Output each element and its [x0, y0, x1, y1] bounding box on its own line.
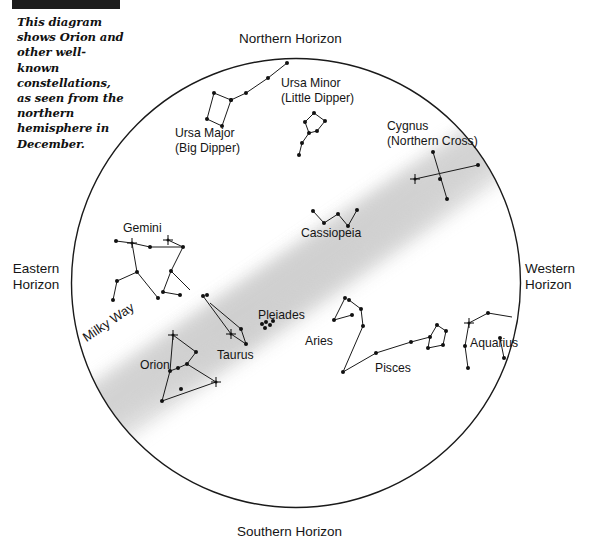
- constellation-line: [343, 326, 363, 372]
- constellation-line: [343, 353, 376, 372]
- star-dot: [161, 290, 165, 294]
- constellation-line: [168, 240, 183, 247]
- constellation-alt-name: (Big Dipper): [175, 141, 240, 156]
- star-dot: [160, 399, 164, 403]
- constellation-line: [430, 325, 437, 337]
- star-dot: [201, 294, 205, 298]
- star-dot: [486, 311, 490, 315]
- star-dot: [332, 318, 336, 322]
- constellation-name: Pleiades: [258, 308, 305, 323]
- star-dot: [300, 141, 304, 145]
- constellation-name: Orion: [140, 358, 170, 373]
- star-dot: [463, 344, 467, 348]
- star-dot: [322, 221, 326, 225]
- label-cassiopeia: Cassiopeia: [301, 226, 361, 241]
- star-dot: [179, 387, 183, 391]
- label-southern-horizon: Southern Horizon: [237, 524, 342, 540]
- constellation-gemini: [111, 235, 209, 302]
- label-western-horizon-line2: Horizon: [525, 277, 589, 293]
- star-dot: [148, 245, 152, 249]
- bright-star-marker: [163, 235, 173, 245]
- constellation-line: [222, 100, 231, 126]
- constellation-name: Aries: [305, 334, 333, 349]
- star-dot: [205, 117, 209, 121]
- constellation-line: [443, 331, 446, 345]
- constellation-alt-name: (Little Dipper): [281, 91, 354, 106]
- constellation-name: Aquarius: [470, 336, 518, 351]
- constellation-name: Ursa Major: [175, 126, 240, 141]
- star-dot: [229, 98, 233, 102]
- star-dot: [176, 366, 180, 370]
- star-dot: [114, 239, 118, 243]
- constellation-line: [163, 271, 171, 292]
- star-dot: [336, 212, 340, 216]
- star-dot: [135, 270, 139, 274]
- star-dot: [343, 296, 347, 300]
- constellation-line: [349, 300, 361, 309]
- constellation-name: Pisces: [375, 361, 411, 376]
- star-dot: [426, 346, 430, 350]
- label-cygnus: Cygnus(Northern Cross): [387, 119, 478, 148]
- constellation-line: [465, 323, 469, 346]
- label-ursa-minor: Ursa Minor(Little Dipper): [281, 76, 354, 105]
- star-dot: [359, 307, 363, 311]
- label-taurus: Taurus: [217, 348, 254, 363]
- bright-star-marker: [464, 318, 474, 328]
- star-dot: [445, 197, 449, 201]
- label-orion: Orion: [140, 358, 170, 373]
- star-dot: [303, 120, 307, 124]
- star-dot: [244, 91, 248, 95]
- star-dot: [441, 343, 445, 347]
- label-ursa-major: Ursa Major(Big Dipper): [175, 126, 240, 155]
- constellation-line: [376, 342, 411, 353]
- constellation-name: Cassiopeia: [301, 226, 361, 241]
- constellation-line: [137, 272, 158, 298]
- constellation-line: [132, 243, 137, 272]
- star-dot: [312, 111, 316, 115]
- star-dot: [323, 119, 327, 123]
- star-dot: [115, 279, 119, 283]
- constellation-line: [214, 93, 231, 100]
- star-dot: [239, 327, 243, 331]
- star-dot: [428, 335, 432, 339]
- constellation-ursa-major: [205, 61, 289, 128]
- label-eastern-horizon-line2: Horizon: [5, 277, 67, 293]
- label-western-horizon: Western Horizon: [525, 261, 589, 293]
- star-dot: [341, 370, 345, 374]
- constellation-line: [163, 292, 180, 295]
- constellation-line: [334, 298, 345, 320]
- constellation-line: [113, 281, 117, 300]
- label-aries: Aries: [305, 334, 333, 349]
- star-dot: [315, 129, 319, 133]
- constellation-line: [246, 78, 268, 93]
- star-dot: [244, 342, 248, 346]
- constellation-line: [465, 346, 468, 368]
- constellation-line: [411, 337, 430, 342]
- star-dot: [111, 298, 115, 302]
- constellation-line: [171, 271, 190, 290]
- star-dot: [502, 356, 506, 360]
- star-dot: [297, 153, 301, 157]
- star-dot: [374, 351, 378, 355]
- star-dot: [347, 298, 351, 302]
- constellation-line: [117, 272, 137, 281]
- constellation-line: [428, 345, 443, 348]
- constellation-alt-name: (Northern Cross): [387, 134, 478, 149]
- constellation-name: Ursa Minor: [281, 76, 354, 91]
- star-chart-figure: This diagram shows Orion and other well-…: [0, 0, 589, 552]
- label-pisces: Pisces: [375, 361, 411, 376]
- milky-way-band: [62, 110, 540, 452]
- star-dot: [431, 150, 435, 154]
- star-dot: [212, 91, 216, 95]
- star-dot: [260, 322, 264, 326]
- star-dot: [268, 323, 272, 327]
- constellation-line: [334, 315, 352, 320]
- star-dot: [444, 329, 448, 333]
- constellation-line: [488, 313, 512, 317]
- constellation-name: Gemini: [123, 221, 162, 236]
- star-dot: [438, 177, 442, 181]
- star-dot: [263, 326, 267, 330]
- constellation-name: Taurus: [217, 348, 254, 363]
- constellation-ursa-minor: [297, 111, 327, 157]
- constellation-line: [313, 211, 324, 223]
